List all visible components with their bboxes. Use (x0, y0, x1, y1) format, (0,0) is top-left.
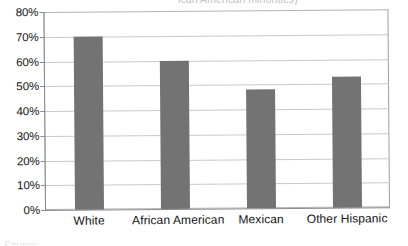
y-axis-tick-label: 20% (2, 155, 40, 167)
bar-slot (216, 10, 304, 209)
bar-slot (130, 11, 218, 210)
x-axis-category-label: Mexican (218, 212, 304, 227)
y-axis-tick-label: 40% (1, 105, 39, 117)
bar (159, 60, 189, 209)
x-axis-category-label: White (46, 213, 132, 228)
x-axis-labels: WhiteAfrican AmericanMexicanOther Hispan… (46, 211, 390, 238)
bar-slot (302, 9, 390, 208)
bar-chart: ican American minorities) 80%70%60%50%40… (0, 0, 408, 246)
bar-slot (44, 11, 132, 210)
bottom-cut-text: Source: ... (4, 240, 184, 245)
y-axis-tick-label: 60% (1, 56, 39, 68)
y-axis-tick-label: 70% (1, 31, 39, 43)
x-axis-category-label: Other Hispanic (304, 211, 390, 226)
bar (73, 36, 103, 209)
bars-layer (44, 9, 390, 210)
y-axis-tick-label: 0% (2, 204, 40, 216)
y-axis-labels: 80%70%60%50%40%30%20%10%0% (0, 0, 40, 246)
y-axis-tick-label: 50% (1, 80, 39, 92)
y-axis-tick-label: 30% (1, 130, 39, 142)
plot-skew-wrapper: 80%70%60%50%40%30%20%10%0% WhiteAfrican … (0, 0, 408, 246)
y-axis-tick-label: 10% (2, 179, 40, 191)
bar (246, 89, 276, 208)
bar (331, 76, 361, 207)
y-axis-tick-label: 80% (0, 6, 38, 18)
x-axis-category-label: African American (132, 213, 218, 228)
